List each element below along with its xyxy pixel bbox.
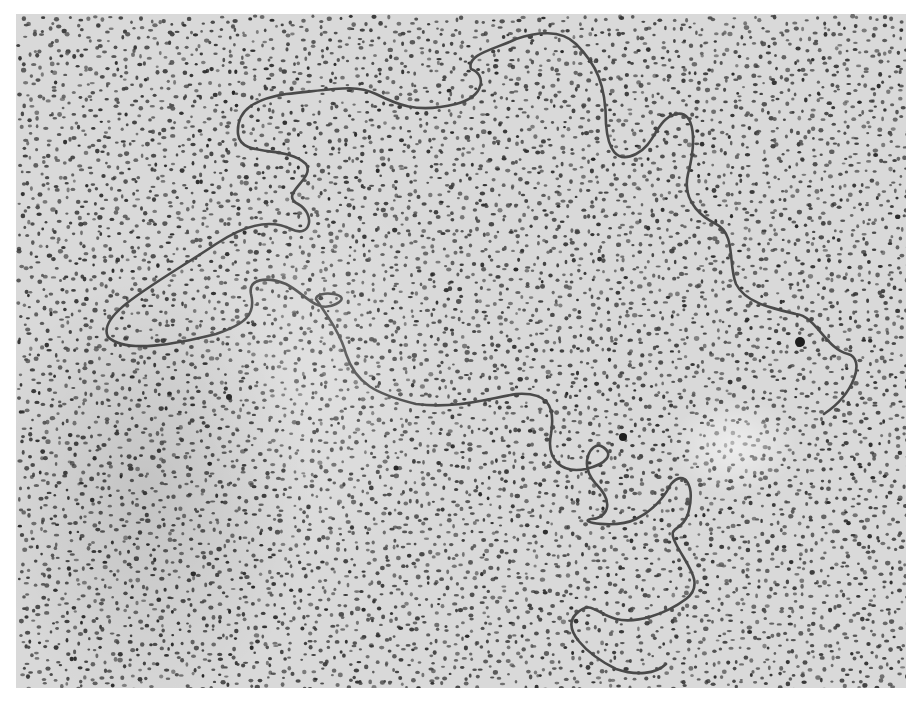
dark-particle-3 xyxy=(394,466,399,471)
strand-segment-lower xyxy=(108,280,695,673)
dark-particle-1 xyxy=(619,433,627,441)
strand-end-knot xyxy=(795,337,805,347)
micrograph-image xyxy=(16,14,906,688)
dark-particle-2 xyxy=(226,394,232,400)
molecular-strand xyxy=(16,14,906,688)
strand-segment-upper xyxy=(106,33,856,414)
dark-particles xyxy=(226,337,805,471)
